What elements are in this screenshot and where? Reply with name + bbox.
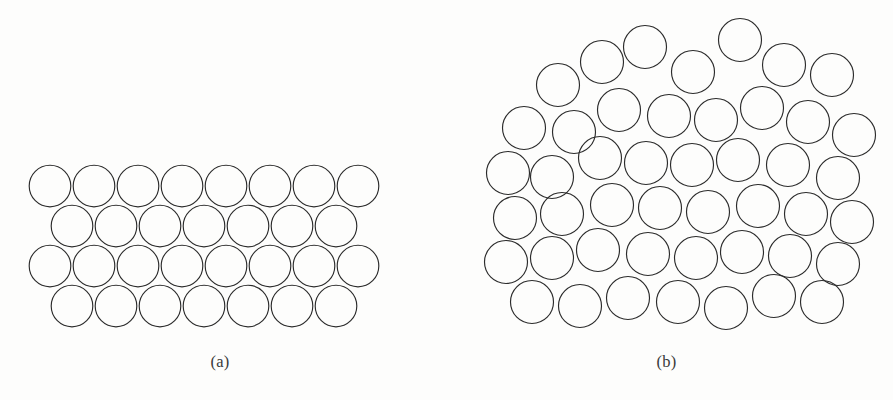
atom-circle xyxy=(51,205,93,247)
atom-circle xyxy=(293,165,335,207)
atom-circle xyxy=(183,285,225,327)
panel-crystalline: (a) xyxy=(0,0,440,400)
atom-circle xyxy=(737,185,780,228)
atom-circle xyxy=(503,107,546,150)
atom-circle xyxy=(591,184,634,227)
atom-circle xyxy=(95,205,137,247)
atom-circle xyxy=(271,285,313,327)
atom-circle xyxy=(161,165,203,207)
atom-circle xyxy=(763,44,806,87)
atom-circle xyxy=(833,114,876,157)
panel-a-caption: (a) xyxy=(0,352,440,372)
atom-circle xyxy=(753,275,796,318)
atom-circle xyxy=(293,245,335,287)
atom-circle xyxy=(531,237,574,280)
atom-circle xyxy=(769,235,812,278)
atom-circle xyxy=(767,144,810,187)
atom-circle xyxy=(625,142,668,185)
atom-circle xyxy=(161,245,203,287)
atom-circle xyxy=(627,233,670,276)
atom-circle xyxy=(607,277,650,320)
atom-circle xyxy=(553,111,596,154)
crystalline-packing-diagram xyxy=(0,0,440,400)
atom-circle xyxy=(811,54,854,97)
atom-circle xyxy=(787,101,830,144)
atom-circle xyxy=(29,165,71,207)
atom-circle xyxy=(487,152,530,195)
atom-circle xyxy=(559,285,602,328)
atom-circle xyxy=(719,19,762,62)
atom-circle xyxy=(139,205,181,247)
atom-circle xyxy=(315,285,357,327)
atom-circle xyxy=(205,165,247,207)
atom-circle xyxy=(337,165,379,207)
atom-circle xyxy=(537,64,580,107)
atom-circle xyxy=(598,89,641,132)
atom-circle xyxy=(672,51,715,94)
atom-circle xyxy=(95,285,137,327)
atom-circle xyxy=(785,193,828,236)
atom-circle xyxy=(139,285,181,327)
atom-circle xyxy=(494,197,537,240)
atom-circle xyxy=(817,243,860,286)
atom-circle xyxy=(485,241,528,284)
atom-circle xyxy=(315,205,357,247)
panel-b-caption: (b) xyxy=(440,352,893,372)
atom-circle xyxy=(579,137,622,180)
atom-circle xyxy=(531,156,574,199)
atom-circle xyxy=(648,95,691,138)
atom-circle xyxy=(705,287,748,330)
atom-circle xyxy=(717,139,760,182)
amorphous-packing-diagram xyxy=(440,0,893,400)
figure-root: Schematic diagrams of atomic packing: cr… xyxy=(0,0,893,400)
atom-circle xyxy=(741,87,784,130)
atom-circle xyxy=(721,231,764,274)
atom-circle xyxy=(117,165,159,207)
atom-circle xyxy=(577,229,620,272)
atom-circle xyxy=(817,157,860,200)
atom-circle xyxy=(511,281,554,324)
atom-circle xyxy=(337,245,379,287)
atom-circle xyxy=(687,191,730,234)
atom-circle xyxy=(117,245,159,287)
atom-circle xyxy=(29,245,71,287)
atom-circle xyxy=(541,193,584,236)
atom-circle xyxy=(801,281,844,324)
atom-circle xyxy=(581,41,624,84)
atom-circle xyxy=(657,281,700,324)
atom-circle xyxy=(227,285,269,327)
atom-circle xyxy=(249,245,291,287)
atom-circle xyxy=(227,205,269,247)
atom-circle xyxy=(624,26,667,69)
atom-circle xyxy=(271,205,313,247)
atom-circle xyxy=(675,237,718,280)
atom-circle xyxy=(73,245,115,287)
atom-circle xyxy=(671,144,714,187)
atom-circle xyxy=(51,285,93,327)
atom-circle xyxy=(73,165,115,207)
atom-circle xyxy=(249,165,291,207)
atom-circle xyxy=(183,205,225,247)
atom-circle xyxy=(639,187,682,230)
atom-circle xyxy=(205,245,247,287)
atom-circle xyxy=(831,201,874,244)
atom-circle xyxy=(695,99,738,142)
panel-amorphous: (b) xyxy=(440,0,893,400)
